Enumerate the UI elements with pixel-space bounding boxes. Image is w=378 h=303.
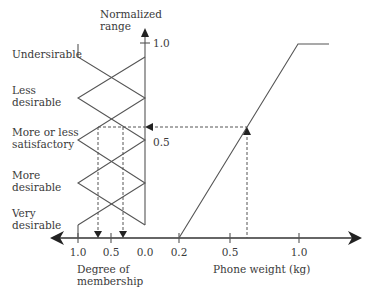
pw-tick-0-5: 0.5 [222, 246, 239, 258]
phone-weight-label: Phone weight (kg) [213, 263, 310, 275]
set-lines-b [78, 57, 145, 225]
weight-mapping-line [179, 44, 329, 238]
set-more-desirable: Moredesirable [12, 169, 61, 193]
tick-label-1-0: 1.0 [153, 37, 170, 49]
dashed-arrow-down-2-icon [119, 231, 127, 238]
pw-tick-1-0: 1.0 [291, 246, 308, 258]
dm-tick-1-0: 1.0 [70, 246, 87, 258]
set-less-desirable: Lessdesirable [12, 84, 61, 108]
dm-tick-0-0: 0.0 [137, 246, 154, 258]
dm-tick-0-5: 0.5 [103, 246, 120, 258]
axis-title: Normalizedrange [100, 8, 162, 32]
set-very-desirable: Verydesirable [12, 207, 61, 231]
set-lines-a [78, 44, 145, 225]
dashed-arrow-left-icon [145, 123, 153, 131]
set-satisfactory: More or lesssatisfactory [12, 126, 79, 150]
degree-of-membership-label: Degree ofmembership [77, 263, 143, 287]
membership-diagram [0, 0, 378, 303]
pw-tick-0-2: 0.2 [171, 246, 188, 258]
tick-label-0-5: 0.5 [153, 136, 170, 148]
dashed-arrow-down-1-icon [94, 231, 102, 238]
set-undesirable: Undersirable [12, 48, 82, 60]
